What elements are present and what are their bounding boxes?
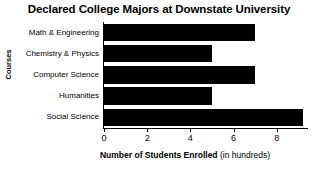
x-axis-tick-mark bbox=[104, 128, 105, 132]
chart-title: Declared College Majors at Downstate Uni… bbox=[0, 2, 318, 16]
bar-row: Math & Engineering bbox=[104, 22, 307, 43]
x-axis-tick-label: 4 bbox=[178, 133, 202, 144]
x-axis-title: Number of Students Enrolled (in hundreds… bbox=[60, 150, 310, 161]
y-axis-tick-label: Math & Engineering bbox=[29, 28, 99, 38]
x-axis-tick-label: 8 bbox=[265, 133, 289, 144]
x-axis-tick-mark bbox=[234, 128, 235, 132]
x-axis-tick-label: 2 bbox=[135, 133, 159, 144]
bar bbox=[104, 87, 212, 104]
plot-area: Math & EngineeringChemistry & PhysicsCom… bbox=[104, 22, 307, 128]
x-axis-tick-mark bbox=[190, 128, 191, 132]
y-axis-tick-label: Chemistry & Physics bbox=[26, 49, 99, 59]
x-axis-title-unit: (in hundreds) bbox=[220, 150, 270, 160]
y-axis-tick-label: Humanities bbox=[59, 91, 99, 101]
x-axis-tick-mark bbox=[147, 128, 148, 132]
bar bbox=[104, 45, 212, 62]
y-axis-title: Courses bbox=[4, 37, 13, 93]
x-axis-title-main: Number of Students Enrolled bbox=[100, 150, 218, 160]
bar bbox=[104, 24, 255, 41]
y-axis-tick-label: Computer Science bbox=[33, 70, 99, 80]
bar-row: Chemistry & Physics bbox=[104, 43, 307, 64]
bar bbox=[104, 109, 303, 126]
bar-row: Computer Science bbox=[104, 64, 307, 85]
y-axis-tick-label: Social Science bbox=[47, 112, 99, 122]
bar-chart: Declared College Majors at Downstate Uni… bbox=[0, 0, 318, 170]
bar-row: Humanities bbox=[104, 86, 307, 107]
x-axis-tick-label: 0 bbox=[92, 133, 116, 144]
bar bbox=[104, 66, 255, 83]
x-axis-tick-mark bbox=[277, 128, 278, 132]
bar-row: Social Science bbox=[104, 107, 307, 128]
x-axis-tick-label: 6 bbox=[222, 133, 246, 144]
